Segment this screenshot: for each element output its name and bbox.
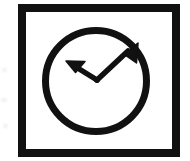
- arrow-vertex-joint: [94, 77, 100, 83]
- icon-canvas: Double-headed arrow in circle: [0, 0, 190, 161]
- scan-artifact-lower: [3, 124, 8, 128]
- trend-change-double-arrow-icon: [0, 0, 190, 161]
- scan-artifact-middle: [1, 98, 7, 102]
- scan-artifact-upper: [2, 68, 7, 72]
